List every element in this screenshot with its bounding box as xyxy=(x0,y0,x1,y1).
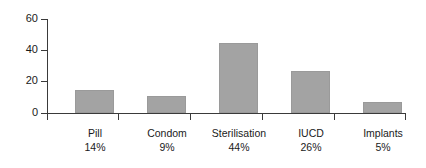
category-name-pill: Pill xyxy=(55,126,135,140)
category-name-condom: Condom xyxy=(127,126,207,140)
category-label-iucd: IUCD 26% xyxy=(271,126,351,154)
x-tick-4 xyxy=(334,114,335,120)
category-label-sterilisation: Sterilisation 44% xyxy=(199,126,279,154)
y-tick-label-20: 20 xyxy=(2,75,38,86)
x-tick-2 xyxy=(190,114,191,120)
category-name-iucd: IUCD xyxy=(271,126,351,140)
x-tick-0 xyxy=(47,114,48,120)
category-label-condom: Condom 9% xyxy=(127,126,207,154)
x-axis-line xyxy=(47,113,406,114)
category-percent-condom: 9% xyxy=(127,140,207,154)
x-tick-5 xyxy=(405,114,406,120)
category-percent-implants: 5% xyxy=(343,140,423,154)
category-label-pill: Pill 14% xyxy=(55,126,135,154)
category-percent-pill: 14% xyxy=(55,140,135,154)
bar-implants xyxy=(363,102,402,113)
x-axis-category-labels: Pill 14% Condom 9% Sterilisation 44% IUC… xyxy=(47,126,406,160)
y-tick-label-40: 40 xyxy=(2,44,38,55)
bar-chart: 60 40 20 0 Pill 14% Con xyxy=(0,0,426,168)
category-label-implants: Implants 5% xyxy=(343,126,423,154)
y-tick-label-60: 60 xyxy=(2,13,38,24)
bar-pill xyxy=(75,90,114,113)
bar-condom xyxy=(147,96,186,113)
bar-sterilisation xyxy=(219,43,258,113)
x-tick-1 xyxy=(118,114,119,120)
bar-series xyxy=(47,14,406,113)
category-percent-sterilisation: 44% xyxy=(199,140,279,154)
category-name-sterilisation: Sterilisation xyxy=(199,126,279,140)
category-percent-iucd: 26% xyxy=(271,140,351,154)
y-tick-label-0: 0 xyxy=(2,107,38,118)
bar-iucd xyxy=(291,71,330,113)
category-name-implants: Implants xyxy=(343,126,423,140)
x-tick-3 xyxy=(262,114,263,120)
